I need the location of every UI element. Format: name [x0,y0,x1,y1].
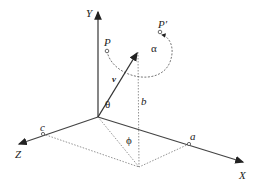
phi-label: ϕ [126,135,132,146]
z-axis [19,117,98,144]
projection-lines [43,52,189,167]
vector-v-label: v [112,75,116,84]
length-b-label: b [141,96,147,107]
z-axis-label: Z [15,149,21,160]
rotation-arc [107,35,172,77]
theta-label: θ [105,99,110,110]
point-c-label: c [40,122,45,133]
diagram-canvas [0,0,260,185]
alpha-label: α [151,43,157,54]
point-a [187,142,190,145]
y-axis-label: Y [86,8,92,19]
rotation-diagram: Y X Z P P′ c a b v α θ ϕ [0,0,260,185]
point-p [105,49,109,53]
point-a-label: a [190,131,196,142]
x-axis [98,117,243,162]
point-p-label: P [104,37,111,48]
vector-v [98,53,137,117]
point-p-prime [158,30,162,34]
x-axis-label: X [239,170,246,181]
point-p-prime-label: P′ [158,19,167,30]
